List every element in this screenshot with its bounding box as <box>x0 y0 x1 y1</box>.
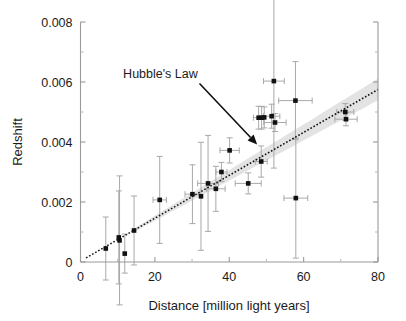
data-point-marker <box>269 114 274 119</box>
y-tick-label: 0.008 <box>41 16 72 30</box>
y-tick-label: 0.006 <box>41 76 72 90</box>
data-point-marker <box>294 196 299 201</box>
x-tick-label: 40 <box>222 270 236 284</box>
hubble-law-figure: 020406080 00.0020.0040.0060.008 Hubble's… <box>0 0 406 321</box>
data-point-marker <box>132 228 137 233</box>
data-point-marker <box>272 79 277 84</box>
figure-background <box>0 0 406 321</box>
data-point-marker <box>344 117 349 122</box>
x-tick-label: 80 <box>371 270 385 284</box>
data-point-marker <box>273 120 278 125</box>
data-point-marker <box>103 246 108 251</box>
data-point-marker <box>246 181 251 186</box>
data-point-marker <box>293 98 298 103</box>
data-point-marker <box>227 148 232 153</box>
annotation-label: Hubble's Law <box>123 67 199 81</box>
y-tick-label: 0.002 <box>41 196 72 210</box>
x-axis-title: Distance [million light years] <box>148 298 309 313</box>
data-point-marker <box>117 238 122 243</box>
scatter-plot: 020406080 00.0020.0040.0060.008 Hubble's… <box>0 0 406 321</box>
y-axis-title: Redshift <box>10 118 25 166</box>
data-point-marker <box>199 194 204 199</box>
data-point-marker <box>122 251 127 256</box>
data-point-marker <box>343 110 348 115</box>
y-tick-label: 0 <box>66 256 73 270</box>
y-tick-label: 0.004 <box>41 136 72 150</box>
data-point-marker <box>206 181 211 186</box>
data-point-marker <box>190 192 195 197</box>
x-tick-label: 0 <box>77 270 84 284</box>
data-point-marker <box>157 198 162 203</box>
data-point-marker <box>214 187 219 192</box>
x-tick-label: 20 <box>148 270 162 284</box>
x-tick-label: 60 <box>297 270 311 284</box>
data-point-marker <box>262 115 267 120</box>
data-point-marker <box>219 170 224 175</box>
data-point-marker <box>259 159 264 164</box>
